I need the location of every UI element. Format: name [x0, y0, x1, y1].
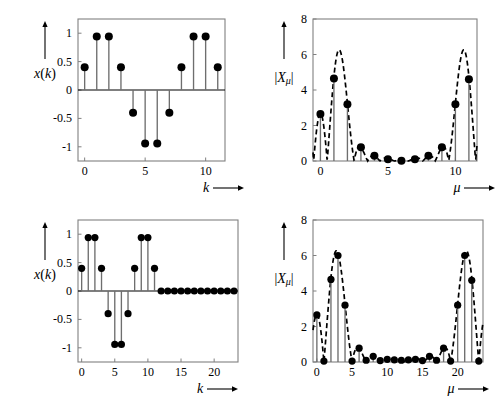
x-tick-label: 5 — [349, 365, 355, 379]
data-point — [224, 287, 231, 294]
y-tick-label: 0.5 — [57, 256, 72, 270]
data-point — [118, 341, 125, 348]
data-point — [190, 33, 198, 41]
data-point — [405, 356, 412, 363]
data-point — [356, 345, 363, 352]
data-point — [438, 143, 446, 151]
data-point — [98, 265, 105, 272]
data-point — [320, 358, 327, 365]
x-tick-label: 0 — [317, 164, 323, 178]
x-axis-arrow-head — [483, 386, 489, 391]
x-axis-label: k — [203, 180, 210, 195]
y-tick-label: 4 — [301, 284, 307, 298]
y-tick-label: 0 — [66, 83, 72, 97]
data-point — [426, 353, 433, 360]
x-tick-label: 15 — [416, 365, 428, 379]
x-axis-arrow-head — [489, 185, 495, 190]
x-tick-label: 20 — [208, 365, 220, 379]
data-point — [334, 252, 341, 259]
data-point — [348, 358, 355, 365]
x-tick-label: 20 — [452, 365, 464, 379]
data-point — [370, 152, 378, 160]
data-point — [468, 277, 475, 284]
y-tick-label: 4 — [301, 83, 307, 97]
panel-dft-12-point: 051086420|Xμ|μ — [251, 0, 503, 202]
data-point — [131, 265, 138, 272]
y-axis-arrow-head — [42, 222, 47, 228]
x-tick-label: 15 — [175, 365, 187, 379]
data-point — [398, 357, 405, 364]
data-point — [81, 63, 89, 71]
figure-root: 051010.50-0.5-1x(k)k 051086420|Xμ|μ 0510… — [0, 0, 503, 403]
y-tick-label: 1 — [66, 26, 72, 40]
dft-24-point-plot: 0510152086420|Xμ|μ — [251, 201, 503, 403]
data-point — [411, 155, 419, 163]
data-point — [184, 287, 191, 294]
data-point — [191, 287, 198, 294]
data-point — [153, 139, 161, 147]
data-point — [377, 357, 384, 364]
data-point — [465, 75, 473, 83]
data-point — [171, 287, 178, 294]
y-axis-arrow-head — [281, 21, 286, 27]
data-point — [144, 234, 151, 241]
data-point — [313, 311, 320, 318]
x-axis-label: μ — [446, 381, 454, 396]
data-point — [151, 265, 158, 272]
y-tick-label: -1 — [62, 341, 72, 355]
data-point — [440, 345, 447, 352]
x-tick-label: 0 — [79, 365, 85, 379]
data-point — [202, 33, 210, 41]
data-point — [475, 358, 482, 365]
data-point — [397, 157, 405, 165]
y-tick-label: 8 — [301, 213, 307, 227]
x-tick-label: 5 — [142, 164, 148, 178]
y-axis-label: |Xμ| — [274, 271, 293, 287]
x-axis-arrow-head — [238, 185, 244, 190]
y-tick-label: 0 — [66, 284, 72, 298]
x-tick-label: 5 — [112, 365, 118, 379]
x-axis-label: μ — [452, 180, 460, 195]
x-tick-label: 10 — [200, 164, 212, 178]
data-point — [204, 287, 211, 294]
y-tick-label: 6 — [301, 249, 307, 263]
x-tick-label: 5 — [385, 164, 391, 178]
data-point — [447, 358, 454, 365]
data-point — [85, 234, 92, 241]
y-tick-label: 2 — [301, 320, 307, 334]
data-point — [454, 302, 461, 309]
data-point — [363, 357, 370, 364]
y-axis-label: x(k) — [33, 66, 56, 82]
data-point — [230, 287, 237, 294]
data-point — [370, 353, 377, 360]
x-tick-label: 0 — [82, 164, 88, 178]
data-point — [93, 33, 101, 41]
y-axis-arrow-head — [281, 222, 286, 228]
y-axis-label: |Xμ| — [274, 70, 293, 86]
x-tick-label: 10 — [381, 365, 393, 379]
data-point — [341, 302, 348, 309]
data-point — [412, 356, 419, 363]
data-point — [214, 63, 222, 71]
data-point — [165, 109, 173, 117]
data-point — [357, 143, 365, 151]
signal-24-point-plot: 0510152010.50-0.5-1x(k)k — [0, 201, 252, 403]
data-point — [343, 100, 351, 108]
data-point — [111, 341, 118, 348]
y-tick-label: -0.5 — [53, 312, 72, 326]
y-axis-arrow-head — [42, 21, 47, 27]
y-tick-label: 0 — [301, 154, 307, 168]
x-tick-label: 10 — [449, 164, 461, 178]
data-point — [391, 356, 398, 363]
data-point — [433, 357, 440, 364]
signal-12-point-plot: 051010.50-0.5-1x(k)k — [0, 0, 252, 202]
data-point — [164, 287, 171, 294]
data-point — [177, 63, 185, 71]
y-tick-label: 8 — [301, 12, 307, 26]
data-point — [141, 139, 149, 147]
data-point — [211, 287, 218, 294]
y-tick-label: 1 — [66, 227, 72, 241]
data-point — [197, 287, 204, 294]
data-point — [158, 287, 165, 294]
x-axis-arrow-head — [232, 386, 238, 391]
